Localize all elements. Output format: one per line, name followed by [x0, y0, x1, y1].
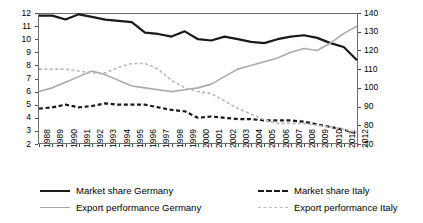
- right-axis-tick: [358, 69, 361, 70]
- right-axis-tick: [358, 32, 361, 33]
- legend-swatch-icon: [258, 203, 288, 213]
- legend-label: Market share Italy: [294, 186, 370, 196]
- series-line-market-share-germany: [39, 14, 357, 60]
- x-axis-tick: [172, 144, 173, 147]
- x-axis-tick: [52, 144, 53, 147]
- right-axis-tick-label: 90: [364, 102, 390, 111]
- right-axis-tick: [358, 50, 361, 51]
- x-axis-tick: [291, 144, 292, 147]
- x-axis-tick: [158, 144, 159, 147]
- x-axis-tick: [251, 144, 252, 147]
- left-axis-tick-label: 6: [9, 87, 31, 96]
- legend-swatch-icon: [40, 186, 70, 196]
- legend-swatch-icon: [40, 203, 70, 213]
- x-axis-tick: [119, 144, 120, 147]
- x-axis-tick: [105, 144, 106, 147]
- left-axis-tick-label: 4: [9, 113, 31, 122]
- right-axis-tick-label: 80: [364, 121, 390, 130]
- right-axis-tick-label: 110: [364, 65, 390, 74]
- x-axis-tick: [331, 144, 332, 147]
- legend-label: Export performance Italy: [294, 203, 398, 213]
- x-axis-tick: [238, 144, 239, 147]
- legend-item[interactable]: Export performance Germany: [40, 203, 201, 213]
- x-axis-tick: [198, 144, 199, 147]
- right-axis-tick: [358, 13, 361, 14]
- left-axis-tick-label: 12: [9, 9, 31, 18]
- x-axis-tick: [278, 144, 279, 147]
- right-axis-tick-label: 100: [364, 83, 390, 92]
- series-line-market-share-italy: [39, 103, 357, 133]
- x-axis-tick: [66, 144, 67, 147]
- chart-container: 23456789101112 708090100110120130140 198…: [0, 0, 423, 223]
- left-axis-tick-label: 8: [9, 61, 31, 70]
- chart-legend: Market share GermanyMarket share ItalyEx…: [40, 186, 420, 220]
- x-axis-tick: [132, 144, 133, 147]
- left-axis-tick-label: 5: [9, 100, 31, 109]
- right-axis-tick-label: 140: [364, 9, 390, 18]
- legend-item[interactable]: Market share Italy: [258, 186, 370, 196]
- right-axis-tick: [358, 88, 361, 89]
- x-axis-tick: [264, 144, 265, 147]
- x-axis-tick-label: 2012: [361, 129, 370, 148]
- left-axis-tick-label: 11: [9, 22, 31, 31]
- left-axis-tick-label: 9: [9, 48, 31, 57]
- legend-swatch-icon: [258, 186, 288, 196]
- x-axis-tick: [79, 144, 80, 147]
- left-axis-tick-label: 10: [9, 35, 31, 44]
- x-axis-tick: [211, 144, 212, 147]
- x-axis-tick: [344, 144, 345, 147]
- right-axis-tick-label: 120: [364, 46, 390, 55]
- x-axis-tick: [39, 144, 40, 147]
- x-axis-tick: [304, 144, 305, 147]
- right-axis-tick-label: 130: [364, 27, 390, 36]
- right-axis-tick: [358, 107, 361, 108]
- right-axis-tick: [358, 125, 361, 126]
- left-axis-tick-label: 7: [9, 74, 31, 83]
- left-axis-tick: [35, 144, 38, 145]
- x-axis-tick: [185, 144, 186, 147]
- legend-item[interactable]: Market share Germany: [40, 186, 173, 196]
- x-axis-tick: [145, 144, 146, 147]
- legend-item[interactable]: Export performance Italy: [258, 203, 398, 213]
- x-axis-tick: [92, 144, 93, 147]
- legend-label: Market share Germany: [76, 186, 173, 196]
- x-axis-tick: [357, 144, 358, 147]
- x-axis-tick: [225, 144, 226, 147]
- left-axis-tick-label: 2: [9, 140, 31, 149]
- left-axis-tick-label: 3: [9, 126, 31, 135]
- data-series-layer: [38, 13, 358, 144]
- legend-label: Export performance Germany: [76, 203, 201, 213]
- x-axis-tick: [317, 144, 318, 147]
